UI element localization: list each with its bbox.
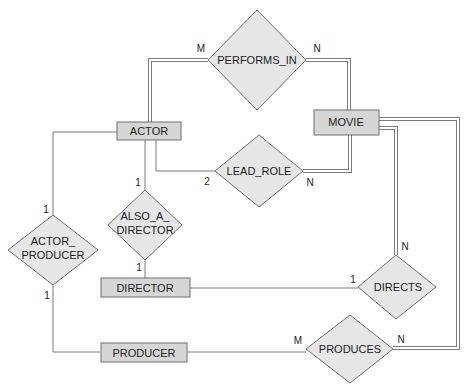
relationship-label: DIRECTS <box>374 281 422 293</box>
entity-actor[interactable]: ACTOR <box>117 122 181 140</box>
cardinality-performs-in-movie: N <box>313 43 320 54</box>
entity-label: PRODUCER <box>113 347 176 359</box>
entity-label: DIRECTOR <box>116 282 173 294</box>
edge-actor-actor-producer <box>53 132 118 215</box>
relationship-actor-producer[interactable]: ACTOR_ PRODUCER <box>8 215 98 285</box>
relationship-label: PERFORMS_IN <box>217 54 297 66</box>
cardinality-performs-in-actor: M <box>197 43 205 54</box>
relationship-lead-role[interactable]: LEAD_ROLE <box>215 135 303 207</box>
relationship-label-line1: ALSO_A_ <box>121 210 171 222</box>
entity-label: ACTOR <box>130 125 168 137</box>
cardinality-lead-role-actor: 2 <box>204 176 210 187</box>
er-diagram: PERFORMS_IN LEAD_ROLE ALSO_A_ DIRECTOR A… <box>0 0 465 386</box>
cardinality-also-a-director-director: 1 <box>136 262 142 273</box>
edge-performs-in-movie <box>306 60 349 110</box>
edge-actor-producer-producer <box>53 285 100 352</box>
relationship-also-a-director[interactable]: ALSO_A_ DIRECTOR <box>108 190 182 260</box>
relationship-directs[interactable]: DIRECTS <box>358 255 436 319</box>
cardinality-directs-director: 1 <box>350 274 356 285</box>
entity-director[interactable]: DIRECTOR <box>101 278 190 297</box>
cardinality-directs-movie: N <box>401 241 408 252</box>
edge-movie-directs <box>379 128 396 255</box>
edge-lead-role-movie <box>303 135 350 171</box>
relationship-label-line2: DIRECTOR <box>116 224 173 236</box>
relationship-label-line1: ACTOR_ <box>31 235 76 247</box>
relationship-performs-in[interactable]: PERFORMS_IN <box>208 10 306 110</box>
relationship-label: PRODUCES <box>319 343 381 355</box>
cardinality-produces-movie: N <box>397 334 404 345</box>
entity-producer[interactable]: PRODUCER <box>101 343 187 362</box>
edge-actor-lead-role <box>156 140 215 171</box>
cardinality-actor-producer-actor: 1 <box>43 204 49 215</box>
relationship-produces[interactable]: PRODUCES <box>306 315 393 383</box>
entity-movie[interactable]: MOVIE <box>314 110 379 135</box>
cardinality-produces-producer: M <box>294 335 302 346</box>
cardinality-also-a-director-actor: 1 <box>135 177 141 188</box>
relationship-label-line2: PRODUCER <box>22 249 85 261</box>
cardinality-lead-role-movie: N <box>306 177 313 188</box>
entity-label: MOVIE <box>328 116 363 128</box>
relationship-label: LEAD_ROLE <box>227 165 292 177</box>
edge-actor-performs-in <box>150 60 208 122</box>
cardinality-actor-producer-producer: 1 <box>44 290 50 301</box>
